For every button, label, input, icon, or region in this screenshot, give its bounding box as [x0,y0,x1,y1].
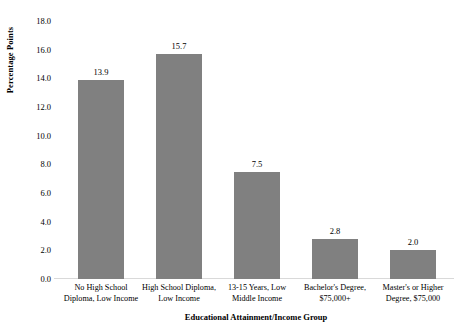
bar-group: 7.5 [218,21,296,279]
bars-layer: 13.915.77.52.82.0 [58,21,454,279]
x-axis-category-labels: No High SchoolDiploma, Low IncomeHigh Sc… [58,283,454,311]
bar[interactable] [312,239,358,279]
bar-value-label: 7.5 [252,159,263,169]
bar[interactable] [390,250,436,279]
x-axis-category-label-line: Degree, $75,000 [367,294,459,305]
bar-value-label: 2.0 [408,237,419,247]
y-axis-tick-label: 0.0 [40,274,51,284]
y-axis-title-label: Percentage Points [5,27,15,93]
y-axis-tick-label: 8.0 [40,159,51,169]
y-axis-tick-label: 6.0 [40,188,51,198]
x-axis-category-label-line: Master's or Higher [367,283,459,294]
bar-group: 13.9 [62,21,140,279]
bar-group: 15.7 [140,21,218,279]
bar-value-label: 2.8 [330,226,341,236]
bar[interactable] [234,172,280,280]
bar[interactable] [156,54,202,279]
plot-area: 0.02.04.06.08.010.012.014.016.018.0 13.9… [58,21,454,279]
y-axis-tick-label: 4.0 [40,217,51,227]
bar-value-label: 13.9 [94,67,109,77]
x-axis-category-label: Master's or HigherDegree, $75,000 [367,283,459,304]
bar[interactable] [78,80,124,279]
bar-value-label: 15.7 [172,41,187,51]
y-axis-tick-label: 12.0 [36,102,51,112]
bar-group: 2.8 [296,21,374,279]
bar-chart: Percentage Points 0.02.04.06.08.010.012.… [0,0,460,336]
y-axis-title: Percentage Points [0,0,20,120]
y-axis-tick-label: 16.0 [36,45,51,55]
y-axis-tick-label: 18.0 [36,16,51,26]
y-axis-tick-label: 10.0 [36,131,51,141]
y-axis-tick-label: 14.0 [36,73,51,83]
x-axis-title: Educational Attainment/Income Group [58,312,454,322]
y-axis-tick-label: 2.0 [40,245,51,255]
bar-group: 2.0 [374,21,452,279]
